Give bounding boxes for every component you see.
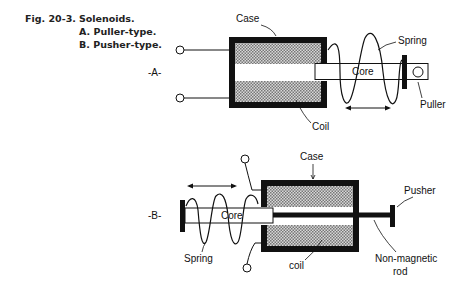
puller-plate <box>402 55 407 89</box>
terminal-icon <box>243 264 251 272</box>
rod-label-line1: Non-magnetic <box>375 253 437 264</box>
non-magnetic-rod <box>272 213 392 218</box>
puller-eye-icon <box>413 67 423 77</box>
coil-a-top <box>235 43 321 64</box>
terminal-icon <box>241 155 249 163</box>
terminal-icon <box>176 94 184 102</box>
puller-label: Puller <box>420 99 446 110</box>
pusher-plate <box>390 205 395 227</box>
puller-solenoid: -A- Core Case Spring Coil Puller <box>148 13 446 132</box>
terminal-icon <box>176 46 184 54</box>
diagram-a-tag: -A- <box>148 67 161 78</box>
pusher-solenoid: -B- Core Case Pusher Non-magnetic rod <box>148 151 437 277</box>
coil-b-bottom <box>267 225 353 246</box>
coil-a-label: Coil <box>312 121 329 132</box>
coil-a-bottom <box>235 81 321 102</box>
core-b-label: Core <box>221 210 243 221</box>
rod-label-line2: rod <box>393 266 407 277</box>
coil-b-label: coil <box>289 260 304 271</box>
solenoid-diagrams: -A- Core Case Spring Coil Puller <box>0 0 472 290</box>
spring-b-label: Spring <box>184 253 213 264</box>
diagram-b-tag: -B- <box>148 210 161 221</box>
spring-a-label: Spring <box>398 35 427 46</box>
end-plate-b <box>180 200 185 232</box>
coil-b-top <box>267 186 353 207</box>
case-a-label: Case <box>236 13 260 24</box>
pusher-label: Pusher <box>404 185 436 196</box>
core-a-label: Core <box>352 66 374 77</box>
case-b-label: Case <box>300 151 324 162</box>
